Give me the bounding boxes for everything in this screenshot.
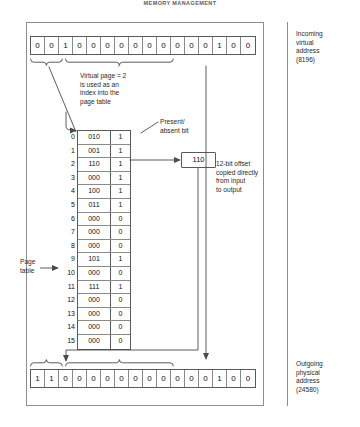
virtual-address-bit-3: 0: [73, 37, 87, 54]
physical-address-bit-4: 0: [87, 370, 101, 387]
physical-address-bit-13: 1: [213, 370, 227, 387]
physical-address-bit-3: 0: [73, 370, 87, 387]
page-table-frame-15: 000: [78, 335, 111, 349]
page-table-row: 1111: [78, 281, 130, 295]
page-table-index-13: 13: [58, 307, 75, 321]
outgoing-physical-address-label: Outgoing physical address (24580): [296, 360, 358, 394]
page-table-frame-14: 000: [78, 321, 111, 334]
virtual-address-bit-7: 0: [129, 37, 143, 54]
virtual-address-bit-5: 0: [101, 37, 115, 54]
page-table-row: 0001: [78, 172, 130, 186]
virtual-page-note: Virtual page = 2 is used as an index int…: [80, 72, 176, 106]
page-table-present-8: 0: [111, 240, 130, 253]
virtual-address-bit-1: 0: [45, 37, 59, 54]
page-table-index-2: 2: [58, 157, 75, 171]
virtual-address-bit-0: 0: [31, 37, 45, 54]
physical-address-bit-row: 1100000000000100: [30, 369, 256, 388]
page-table-index-3: 3: [58, 171, 75, 185]
virtual-address-bit-14: 0: [227, 37, 241, 54]
page-table-present-3: 1: [111, 172, 130, 185]
page-table-present-7: 0: [111, 226, 130, 239]
page-table-index-9: 9: [58, 252, 75, 266]
physical-address-bit-14: 0: [227, 370, 241, 387]
page-table-frame-3: 000: [78, 172, 111, 185]
virtual-address-bit-8: 0: [143, 37, 157, 54]
page-table-index-15: 15: [58, 334, 75, 348]
page-table-row: 0000: [78, 294, 130, 308]
physical-address-bit-8: 0: [143, 370, 157, 387]
page-table-frame-9: 101: [78, 253, 111, 266]
virtual-address-bit-6: 0: [115, 37, 129, 54]
virtual-address-bit-15: 0: [241, 37, 255, 54]
virtual-address-bit-2: 1: [59, 37, 73, 54]
page-table-row: 0000: [78, 240, 130, 254]
selected-frame-box: 110: [181, 152, 216, 168]
page-table-row: 1101: [78, 158, 130, 172]
page-table-present-15: 0: [111, 335, 130, 349]
page-table-frame-13: 000: [78, 308, 111, 321]
page-table-frame-4: 100: [78, 185, 111, 198]
virtual-address-bit-4: 0: [87, 37, 101, 54]
physical-address-bit-5: 0: [101, 370, 115, 387]
page-table-present-10: 0: [111, 267, 130, 280]
physical-address-bit-9: 0: [157, 370, 171, 387]
page-table: 0101001111010001100101110000000000001011…: [77, 130, 131, 350]
page-table-frame-1: 001: [78, 145, 111, 158]
page-table-row: 0000: [78, 308, 130, 322]
page-table-present-0: 1: [111, 131, 130, 144]
virtual-address-bit-13: 1: [213, 37, 227, 54]
physical-address-bit-12: 0: [199, 370, 213, 387]
page-table-index-8: 8: [58, 239, 75, 253]
page-table-present-14: 0: [111, 321, 130, 334]
page-table-row: 1001: [78, 185, 130, 199]
figure-header: MEMORY MANAGEMENT: [0, 0, 360, 7]
page-table-index-10: 10: [58, 266, 75, 280]
page-table-index-6: 6: [58, 212, 75, 226]
page-table-index-gutter: 0123456789101112131415: [58, 130, 75, 348]
physical-address-bit-7: 0: [129, 370, 143, 387]
virtual-address-bit-12: 0: [199, 37, 213, 54]
physical-address-bit-2: 0: [59, 370, 73, 387]
page-table-frame-12: 000: [78, 294, 111, 307]
page-table-present-1: 1: [111, 145, 130, 158]
page-table-row: 0011: [78, 145, 130, 159]
page-table-present-5: 1: [111, 199, 130, 212]
virtual-address-bit-row: 0010000000000100: [30, 36, 256, 55]
page-table-frame-6: 000: [78, 213, 111, 226]
page-table-index-7: 7: [58, 225, 75, 239]
offset-note: 12-bit offset copied directly from input…: [216, 160, 282, 194]
physical-address-bit-1: 1: [45, 370, 59, 387]
page-table-row: 0111: [78, 199, 130, 213]
page-table-frame-11: 111: [78, 281, 111, 294]
physical-address-bit-10: 0: [171, 370, 185, 387]
page-table-row: 0000: [78, 321, 130, 335]
physical-address-bit-15: 0: [241, 370, 255, 387]
virtual-address-bit-11: 0: [185, 37, 199, 54]
incoming-virtual-address-label: Incoming virtual address (8196): [296, 30, 358, 64]
page-table-label: Page table: [20, 258, 50, 275]
page-table-frame-2: 110: [78, 158, 111, 171]
page-table-row: 0000: [78, 267, 130, 281]
page-table-present-6: 0: [111, 213, 130, 226]
present-absent-bit-note: Present/ absent bit: [160, 118, 218, 135]
page-table-index-0: 0: [58, 130, 75, 144]
page-table-index-4: 4: [58, 184, 75, 198]
page-table-frame-5: 011: [78, 199, 111, 212]
page-table-present-12: 0: [111, 294, 130, 307]
page-table-index-11: 11: [58, 280, 75, 294]
page-table-row: 0000: [78, 226, 130, 240]
page-table-row: 0000: [78, 335, 130, 349]
physical-address-bit-11: 0: [185, 370, 199, 387]
page-table-present-11: 1: [111, 281, 130, 294]
page-table-row: 0101: [78, 131, 130, 145]
page-table-frame-7: 000: [78, 226, 111, 239]
page-table-present-13: 0: [111, 308, 130, 321]
virtual-address-bit-9: 0: [157, 37, 171, 54]
page-table-present-9: 1: [111, 253, 130, 266]
page-table-index-5: 5: [58, 198, 75, 212]
page-table-row: 0000: [78, 213, 130, 227]
page-table-index-1: 1: [58, 144, 75, 158]
right-divider-line: [287, 22, 288, 406]
page-table-present-2: 1: [111, 158, 130, 171]
virtual-address-bit-10: 0: [171, 37, 185, 54]
